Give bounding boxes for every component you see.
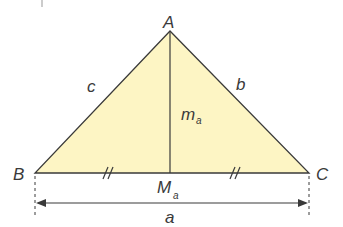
dimension-a-label: a [165,208,174,227]
side-b-label: b [236,75,245,94]
vertex-a-label: A [162,13,174,32]
arrowhead-left-icon [36,199,46,207]
side-c-label: c [87,77,96,96]
diagram-canvas: A B C c b m a M a a [0,0,343,227]
triangle-median-diagram: A B C c b m a M a a [0,0,343,227]
median-subscript: a [196,115,202,126]
arrowhead-right-icon [298,199,308,207]
median-label: m [181,105,195,124]
vertex-c-label: C [316,165,329,184]
vertex-b-label: B [13,165,24,184]
midpoint-subscript: a [173,190,179,201]
triangle-abc [35,31,309,173]
midpoint-label: M [157,178,172,197]
